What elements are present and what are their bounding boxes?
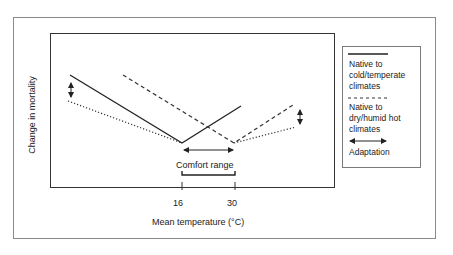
series-adapted-hot-line (234, 127, 296, 143)
legend: Native to cold/temperate climates Native… (342, 46, 421, 168)
comfort-range-bracket (182, 171, 235, 175)
legend-item-cold-temperate: Native to cold/temperate climates (349, 59, 405, 92)
series-hot-climate-line (123, 75, 293, 143)
x-tick-label-16: 16 (173, 198, 183, 209)
y-axis-label: Change in mortality (27, 65, 37, 165)
legend-item-hot-climates: Native to dry/humid hot climates (349, 102, 401, 135)
comfort-range-label: Comfort range (176, 160, 234, 171)
series-adapted-cold-line (68, 101, 182, 143)
x-tick-label-30: 30 (227, 198, 237, 209)
legend-item-adaptation: Adaptation (349, 147, 390, 158)
x-axis-label: Mean temperature (°C) (152, 217, 244, 228)
